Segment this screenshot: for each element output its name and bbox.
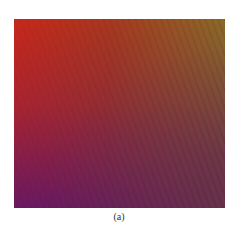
- figure-caption: (a): [0, 211, 238, 222]
- stripe-pattern-layer: [14, 19, 225, 208]
- gradient-image: [14, 19, 225, 208]
